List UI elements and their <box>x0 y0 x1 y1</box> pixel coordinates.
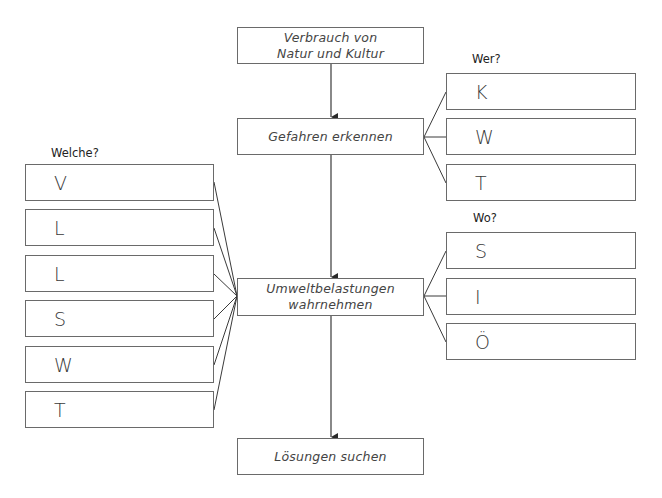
welche-connectors <box>214 182 237 410</box>
wo-answer-field-2[interactable]: I <box>446 278 636 315</box>
answer-hint-letter: W <box>475 126 494 148</box>
answer-hint-letter: T <box>475 172 487 194</box>
wo-answer-field-3[interactable]: Ö <box>446 323 636 360</box>
answer-hint-letter: L <box>54 263 65 285</box>
wo-answer-field-1[interactable]: S <box>446 232 636 269</box>
welche-answer-field-5[interactable]: W <box>25 346 214 383</box>
answer-hint-letter: S <box>475 240 487 262</box>
wer-answer-field-2[interactable]: W <box>446 118 636 155</box>
wer-label: Wer? <box>472 52 501 66</box>
answer-hint-letter: W <box>54 354 73 376</box>
answer-hint-letter: I <box>475 286 481 308</box>
wo-connectors <box>424 251 446 342</box>
answer-hint-letter: S <box>54 308 66 330</box>
flow-step-line: Verbrauch von <box>284 30 378 46</box>
answer-hint-letter: K <box>475 81 487 103</box>
wer-connectors <box>424 92 446 183</box>
answer-hint-letter: L <box>54 217 65 239</box>
flow-diagram: Verbrauch von Natur und Kultur Gefahren … <box>0 0 662 498</box>
welche-label: Welche? <box>51 146 99 160</box>
wo-label: Wo? <box>473 211 497 225</box>
welche-answer-field-4[interactable]: S <box>25 300 214 337</box>
welche-answer-field-2[interactable]: L <box>25 209 214 246</box>
wer-answer-field-1[interactable]: K <box>446 73 636 110</box>
answer-hint-letter: V <box>54 172 67 194</box>
flow-step-label: Gefahren erkennen <box>268 129 393 145</box>
answer-hint-letter: T <box>54 399 66 421</box>
flow-step-umweltbelastungen: Umweltbelastungen wahrnehmen <box>237 278 424 316</box>
welche-answer-field-6[interactable]: T <box>25 391 214 428</box>
flow-step-line: Umweltbelastungen <box>266 281 395 297</box>
answer-hint-letter: Ö <box>475 331 490 353</box>
wer-answer-field-3[interactable]: T <box>446 164 636 201</box>
flow-step-verbrauch: Verbrauch von Natur und Kultur <box>237 27 424 64</box>
welche-answer-field-1[interactable]: V <box>25 164 214 201</box>
welche-answer-field-3[interactable]: L <box>25 255 214 292</box>
flow-step-loesungen: Lösungen suchen <box>237 438 424 475</box>
flow-step-label: Lösungen suchen <box>274 449 386 465</box>
flow-step-line: Natur und Kultur <box>277 46 384 62</box>
flow-step-gefahren: Gefahren erkennen <box>237 118 424 155</box>
flow-step-line: wahrnehmen <box>288 297 372 313</box>
